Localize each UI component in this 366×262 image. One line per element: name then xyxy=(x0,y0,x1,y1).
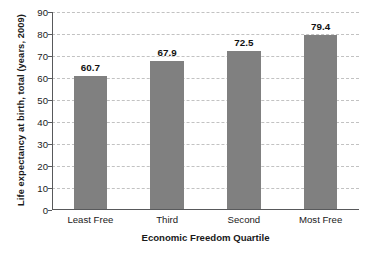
y-tick-label: 30 xyxy=(37,139,48,150)
bar-chart: Life expectancy at birth, total (years, … xyxy=(0,0,366,262)
bar-value-label: 72.5 xyxy=(234,37,253,48)
y-tick-label: 10 xyxy=(37,183,48,194)
y-tick-label: 60 xyxy=(37,73,48,84)
bar xyxy=(74,76,107,210)
bar-group: 67.9 xyxy=(150,12,183,210)
bar-value-label: 60.7 xyxy=(81,62,100,73)
bar-value-label: 79.4 xyxy=(311,21,330,32)
y-tick-label: 50 xyxy=(37,95,48,106)
bar-value-label: 67.9 xyxy=(158,47,177,58)
bar-series: 60.767.972.579.4 xyxy=(52,12,359,210)
bar xyxy=(227,51,260,211)
y-tick-mark xyxy=(48,210,52,211)
y-axis-title: Life expectancy at birth, total (years, … xyxy=(16,10,26,210)
y-tick-label: 70 xyxy=(37,51,48,62)
x-tick-label: Least Free xyxy=(52,214,129,225)
plot-area: 0102030405060708090 60.767.972.579.4 xyxy=(52,12,359,210)
x-axis-title: Economic Freedom Quartile xyxy=(52,232,359,243)
bar-group: 79.4 xyxy=(304,12,337,210)
x-tick-label: Third xyxy=(129,214,206,225)
y-tick-label: 80 xyxy=(37,29,48,40)
y-tick-label: 40 xyxy=(37,117,48,128)
x-tick-label: Most Free xyxy=(282,214,359,225)
y-tick-label: 20 xyxy=(37,161,48,172)
bar xyxy=(150,61,183,210)
y-tick-label: 0 xyxy=(43,205,48,216)
y-tick-label: 90 xyxy=(37,7,48,18)
bar xyxy=(304,35,337,210)
x-axis-line xyxy=(52,209,359,210)
bar-group: 72.5 xyxy=(227,12,260,210)
x-tick-label: Second xyxy=(206,214,283,225)
y-axis-line xyxy=(52,12,53,210)
bar-group: 60.7 xyxy=(74,12,107,210)
